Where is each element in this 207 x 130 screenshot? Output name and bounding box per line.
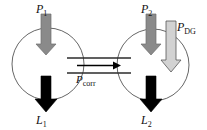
label-pdg: PDG — [177, 21, 196, 36]
label-p1-sub: 1 — [43, 9, 47, 18]
label-l2-base: L — [141, 113, 148, 127]
diagram-canvas — [0, 0, 207, 130]
l1-output-arrow — [35, 76, 57, 112]
label-pcorr-sub: corr — [83, 79, 96, 88]
label-pcorr: Pcorr — [76, 74, 96, 88]
label-pcorr-base: P — [76, 73, 83, 85]
label-p2: P2 — [141, 3, 152, 18]
label-l1-base: L — [36, 113, 43, 127]
power-system-diagram: P1 P2 PDG Pcorr L1 L2 — [0, 0, 207, 130]
label-l1-sub: 1 — [43, 120, 47, 129]
label-l1: L1 — [36, 114, 47, 129]
label-p2-sub: 2 — [148, 9, 152, 18]
label-pdg-sub: DG — [184, 27, 196, 36]
label-l2-sub: 2 — [148, 120, 152, 129]
p1-input-arrow — [36, 14, 56, 55]
p2-input-arrow — [141, 14, 161, 55]
label-l2: L2 — [141, 114, 152, 129]
label-p1: P1 — [36, 3, 47, 18]
l2-output-arrow — [140, 76, 162, 112]
